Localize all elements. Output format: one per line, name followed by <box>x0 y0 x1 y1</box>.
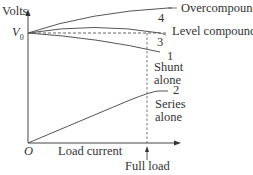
full-load-arrow-icon <box>145 146 149 152</box>
level-compound-label: Level compound <box>172 25 253 38</box>
y-axis-label: Volts <box>2 5 27 18</box>
origin-label: O <box>24 145 33 158</box>
curve-series-alone <box>28 91 168 143</box>
curve-2-number: 2 <box>173 84 179 97</box>
curve-3-number: 3 <box>157 36 163 49</box>
v0-label: V0 <box>12 26 24 44</box>
x-axis-arrow-icon <box>174 141 181 146</box>
series-label-line2: alone <box>155 111 182 124</box>
overcompound-label: Overcompound <box>181 2 253 15</box>
curve-overcompound <box>28 8 172 33</box>
curve-4-number: 4 <box>158 12 164 25</box>
curve-level-compound <box>28 28 160 34</box>
v0-label-main: V <box>12 25 20 39</box>
full-load-label: Full load <box>125 160 170 173</box>
curve-shunt-alone <box>28 33 160 52</box>
x-axis-label: Load current <box>58 145 122 158</box>
v0-label-subscript: 0 <box>20 33 24 42</box>
